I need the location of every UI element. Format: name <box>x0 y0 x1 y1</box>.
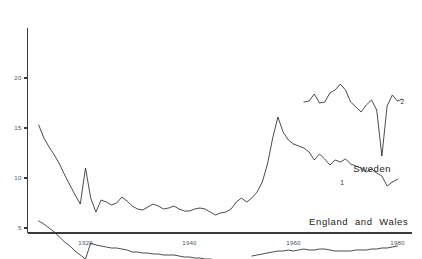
x-tick-label: 1960 <box>274 239 314 246</box>
series-line-lower-late <box>252 246 398 256</box>
series-line-sweden-upper <box>304 84 398 156</box>
leader-line-series-1 <box>392 179 398 182</box>
y-tick-label: 5 <box>0 224 22 231</box>
annotation-leader-lines <box>392 99 402 182</box>
x-tick-label: 1940 <box>170 239 210 246</box>
y-tick-label: 15 <box>0 124 22 131</box>
series-marker-2: 2 <box>401 98 405 105</box>
y-tick-label: 20 <box>0 74 22 81</box>
chart-container: 5101520 1920194019601980 Sweden England … <box>0 0 422 259</box>
x-tick-label: 1980 <box>378 239 418 246</box>
series-line-upper-early <box>39 117 294 215</box>
series-label-england-and-wales: England and Wales <box>309 216 408 227</box>
axes-group <box>24 28 412 233</box>
series-marker-1: 1 <box>340 179 344 186</box>
series-label-sweden: Sweden <box>353 163 391 174</box>
x-tick-label: 1920 <box>66 239 106 246</box>
y-tick-label: 10 <box>0 174 22 181</box>
